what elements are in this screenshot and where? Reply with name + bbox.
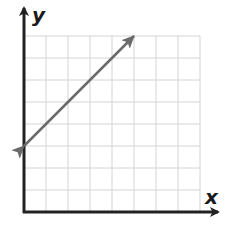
grid-lines — [24, 36, 200, 212]
line-with-arrows — [24, 36, 134, 146]
coordinate-graph: y x — [0, 0, 226, 227]
y-axis-label: y — [32, 3, 46, 27]
x-axis-label: x — [204, 185, 219, 209]
